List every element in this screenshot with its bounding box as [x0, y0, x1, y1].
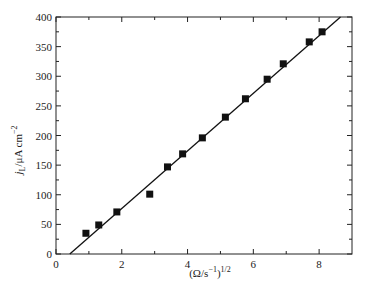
y-tick-label: 300 — [36, 70, 53, 82]
y-axis-label: jL/μA cm−2 — [10, 126, 27, 177]
data-point-square — [199, 134, 206, 141]
data-point-square — [306, 38, 313, 45]
y-tick-label: 350 — [36, 41, 53, 53]
y-tick-label: 0 — [47, 248, 53, 260]
x-axis-ticks: 02468 — [53, 17, 322, 270]
data-point-square — [82, 230, 89, 237]
y-tick-label: 100 — [36, 189, 53, 201]
x-tick-label: 6 — [251, 258, 257, 270]
data-point-square — [113, 208, 120, 215]
data-point-square — [242, 95, 249, 102]
y-tick-label: 150 — [36, 159, 53, 171]
y-tick-label: 200 — [36, 130, 53, 142]
y-tick-label: 250 — [36, 100, 53, 112]
y-tick-label: 400 — [36, 11, 53, 23]
data-point-square — [222, 114, 229, 121]
data-point-square — [164, 163, 171, 170]
x-tick-label: 2 — [119, 258, 125, 270]
x-tick-label: 0 — [53, 258, 59, 270]
data-point-square — [264, 76, 271, 83]
data-point-square — [146, 191, 153, 198]
data-point-square — [319, 28, 326, 35]
data-points — [82, 28, 325, 236]
data-point-square — [280, 60, 287, 67]
data-point-square — [95, 221, 102, 228]
data-point-square — [179, 150, 186, 157]
x-axis-label: (Ω/s−1)1/2 — [189, 265, 231, 280]
x-tick-label: 8 — [316, 258, 322, 270]
chart: 02468 050100150200250300350400 (Ω/s−1)1/… — [0, 0, 370, 293]
svg-text:jL/μA cm−2: jL/μA cm−2 — [10, 126, 27, 177]
y-tick-label: 50 — [41, 218, 53, 230]
svg-text:(Ω/s−1)1/2: (Ω/s−1)1/2 — [189, 265, 231, 280]
